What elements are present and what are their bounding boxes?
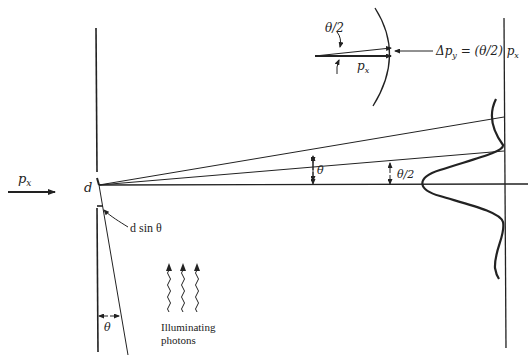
photon-wave-1 <box>166 263 172 312</box>
incident-momentum-label: px <box>18 171 31 188</box>
slit-barrier-lower <box>97 208 98 352</box>
path-difference-leader <box>104 210 128 227</box>
path-difference-label: d sin θ <box>130 221 162 235</box>
inset-angle-leader-bottom <box>337 60 339 74</box>
photon-arrowhead-3 <box>194 263 200 271</box>
inset-arc <box>373 8 390 106</box>
angle-full-label: θ <box>317 164 324 177</box>
label-sub-x: x <box>26 178 31 188</box>
detection-screen <box>504 18 506 348</box>
inset-equation: Δpy = (θ/2) px <box>435 44 519 60</box>
photon-wave-2 <box>180 263 186 312</box>
photons-label-line2: photons <box>161 334 196 346</box>
intensity-curve <box>422 99 503 279</box>
diagram-canvas: px d d sin θ θ θ/2 θ Il <box>0 0 528 360</box>
single-slit-diffraction-diagram: px d d sin θ θ θ/2 θ Il <box>0 0 528 360</box>
slit-width-label: d <box>84 180 92 195</box>
angle-half-label: θ/2 <box>397 168 414 181</box>
inset-label-sub-x: x <box>365 66 370 75</box>
central-axis <box>99 184 528 185</box>
equation-rest: = (θ/2) p <box>457 44 515 58</box>
photon-arrowhead-2 <box>180 263 186 271</box>
photons-label-line1: Illuminating <box>161 321 216 333</box>
photon-wave-3 <box>194 263 200 312</box>
photon-arrowhead-1 <box>166 263 172 271</box>
equation-delta-p: Δp <box>435 44 453 58</box>
ray-top <box>99 117 504 185</box>
slit-barrier-upper <box>96 28 97 172</box>
inset-angle-label: θ/2 <box>325 21 344 35</box>
equation-sub-x: x <box>514 51 519 60</box>
inset-momentum-label: px <box>357 59 370 75</box>
slit-edge-top <box>97 178 99 185</box>
angle-bottom-label: θ <box>104 321 111 334</box>
inset-deflected-vector <box>315 48 391 56</box>
